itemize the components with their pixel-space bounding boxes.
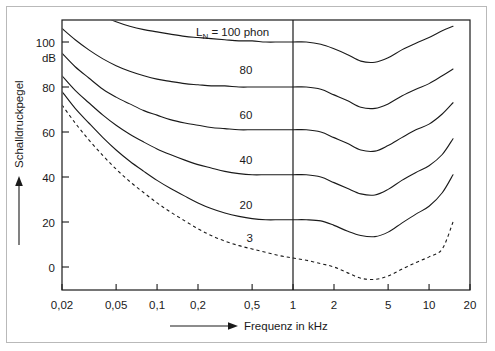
x-tick-label: 20	[464, 299, 477, 311]
y-axis-unit-label: dB	[42, 52, 56, 64]
x-tick-label: 0,1	[149, 299, 165, 311]
y-tick-label: 80	[42, 82, 55, 94]
curve-label-3: 3	[247, 232, 253, 244]
x-axis-title-group: Frequenz in kHz	[170, 320, 328, 332]
y-axis-ticks: 020406080100	[36, 37, 69, 274]
y-tick-label: 40	[42, 172, 55, 184]
x-tick-label: 0,2	[190, 299, 206, 311]
x-tick-label: 0,05	[105, 299, 127, 311]
x-axis-ticks: 0,020,050,10,20,51251020	[51, 284, 477, 311]
x-tick-label: 0,5	[244, 299, 260, 311]
contour-curve-80	[62, 29, 453, 109]
chart-canvas: 0,020,050,10,20,51251020 020406080100 32…	[0, 0, 495, 351]
curve-group	[62, 0, 453, 280]
x-tick-label: 5	[385, 299, 391, 311]
y-tick-label: 0	[49, 262, 55, 274]
contour-curve-20	[62, 92, 453, 237]
x-tick-label: 2	[331, 299, 337, 311]
y-tick-label: 60	[42, 127, 55, 139]
x-tick-label: 1	[290, 299, 296, 311]
y-axis-title: Schalldruckpegel	[13, 80, 25, 168]
x-tick-label: 10	[423, 299, 436, 311]
x-axis-title: Frequenz in kHz	[244, 320, 328, 332]
curve-label-20: 20	[239, 199, 252, 211]
ln-rest-text: = 100 phon	[208, 26, 269, 38]
y-tick-label: 100	[36, 37, 55, 49]
contour-curve-3	[62, 105, 453, 280]
ln-100-phon-annotation: LN = 100 phon	[196, 26, 269, 41]
equal-loudness-contour-figure: 0,020,050,10,20,51251020 020406080100 32…	[0, 0, 495, 351]
curve-label-60: 60	[239, 109, 252, 121]
curve-label-80: 80	[239, 64, 252, 76]
contour-curve-40	[62, 76, 453, 196]
plot-frame	[62, 20, 470, 290]
curve-label-40: 40	[239, 154, 252, 166]
x-tick-label: 0,02	[51, 299, 73, 311]
y-axis-title-group: Schalldruckpegel	[13, 80, 25, 245]
svg-text:LN = 100 phon: LN = 100 phon	[196, 26, 269, 41]
y-tick-label: 20	[42, 217, 55, 229]
